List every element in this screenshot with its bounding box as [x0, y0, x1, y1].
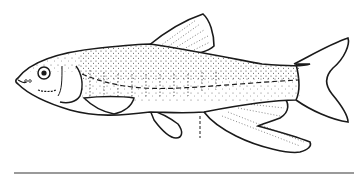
fish-illustration — [0, 0, 364, 176]
illustration-canvas — [0, 0, 364, 176]
caudal-fin — [294, 38, 348, 122]
pelvic-fin — [150, 110, 182, 138]
horizontal-rule — [14, 172, 354, 174]
pupil — [41, 70, 46, 75]
